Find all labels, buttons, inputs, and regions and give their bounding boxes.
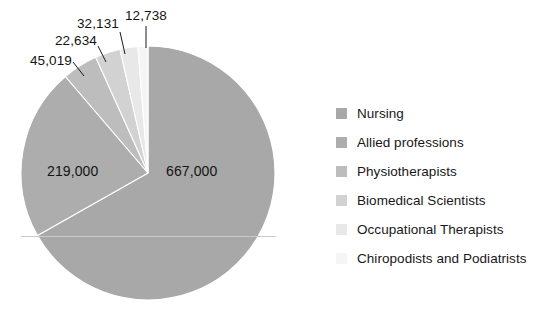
legend-item[interactable]: Nursing	[336, 99, 536, 128]
pie-value-label: 219,000	[47, 163, 98, 179]
legend-item[interactable]: Occupational Therapists	[336, 215, 536, 244]
legend-item[interactable]: Physiotherapists	[336, 157, 536, 186]
pie-value-label: 22,634	[55, 33, 97, 48]
pie-chart-area: 667,000219,00045,01922,63432,13112,738	[0, 0, 310, 327]
legend-item-label: Occupational Therapists	[357, 222, 503, 237]
legend-color-swatch	[336, 137, 347, 148]
legend-item[interactable]: Allied professions	[336, 128, 536, 157]
legend-item-label: Nursing	[357, 106, 404, 121]
legend-item-label: Biomedical Scientists	[357, 193, 486, 208]
legend-item-label: Chiropodists and Podiatrists	[357, 251, 526, 266]
legend-item[interactable]: Biomedical Scientists	[336, 186, 536, 215]
legend-item-label: Allied professions	[357, 135, 464, 150]
legend-color-swatch	[336, 253, 347, 264]
pie-value-label: 667,000	[166, 163, 217, 179]
chart-root: 667,000219,00045,01922,63432,13112,738 N…	[0, 0, 539, 327]
pie-value-label: 12,738	[125, 8, 167, 23]
pie-value-label: 32,131	[77, 16, 119, 31]
legend-item[interactable]: Chiropodists and Podiatrists	[336, 244, 536, 273]
pie-value-label: 45,019	[30, 53, 72, 68]
legend-color-swatch	[336, 108, 347, 119]
legend-color-swatch	[336, 195, 347, 206]
legend: NursingAllied professionsPhysiotherapist…	[336, 99, 536, 273]
legend-color-swatch	[336, 166, 347, 177]
legend-item-label: Physiotherapists	[357, 164, 457, 179]
legend-color-swatch	[336, 224, 347, 235]
